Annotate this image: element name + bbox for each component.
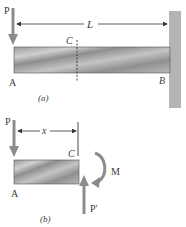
length-label: L	[86, 18, 93, 30]
shear-arrow-icon	[79, 175, 89, 214]
shear-label: P'	[90, 203, 98, 214]
beam-a	[14, 47, 170, 73]
moment-label: M	[111, 166, 120, 177]
cantilever-beam-diagram: P L C A B (a) P x C A M	[0, 0, 186, 227]
beam-segment-b	[14, 160, 79, 184]
end-label-b: B	[159, 75, 165, 86]
end-label-a-b: A	[11, 188, 19, 199]
caption-b: (b)	[40, 214, 51, 224]
load-label-b: P	[5, 116, 11, 127]
fixed-wall	[169, 11, 181, 108]
end-label-a: A	[9, 77, 17, 88]
figure-b: P x C A M P' (b)	[5, 116, 120, 224]
figure-a: P L C A B (a)	[4, 5, 181, 108]
distance-label: x	[41, 125, 47, 136]
load-label-a: P	[4, 5, 10, 16]
caption-a: (a)	[38, 93, 49, 103]
section-label-b: C	[68, 148, 75, 159]
moment-arrow-icon	[91, 153, 105, 188]
section-label-a: C	[66, 35, 73, 46]
